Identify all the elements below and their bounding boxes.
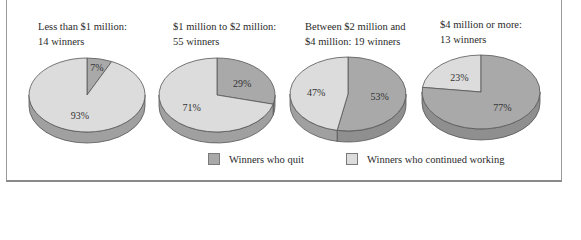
pie-label-quit: 53% [371,91,389,102]
pie-chart-4: 23%77% [422,55,540,140]
pie-label-quit: 77% [493,102,511,113]
pie-chart-2: 29%71% [159,58,275,143]
pie-label-quit: 7% [90,62,103,73]
legend-swatch-continued [346,153,358,165]
pie-chart-1: 7%93% [29,58,145,143]
pie-slice-continued [29,58,145,132]
legend-label-quit: Winners who quit [229,154,304,165]
pie-chart-3: 53%47% [290,57,406,142]
legend-item-continued: Winners who continued working [346,153,505,165]
pie-label-continued: 93% [71,110,89,121]
pie-label-continued: 47% [307,87,325,98]
legend-swatch-quit [208,153,220,165]
legend-item-quit: Winners who quit [208,153,304,165]
pie-label-quit: 29% [233,78,251,89]
legend-label-continued: Winners who continued working [367,154,505,165]
pie-label-continued: 23% [450,72,468,83]
pie-label-continued: 71% [183,102,201,113]
